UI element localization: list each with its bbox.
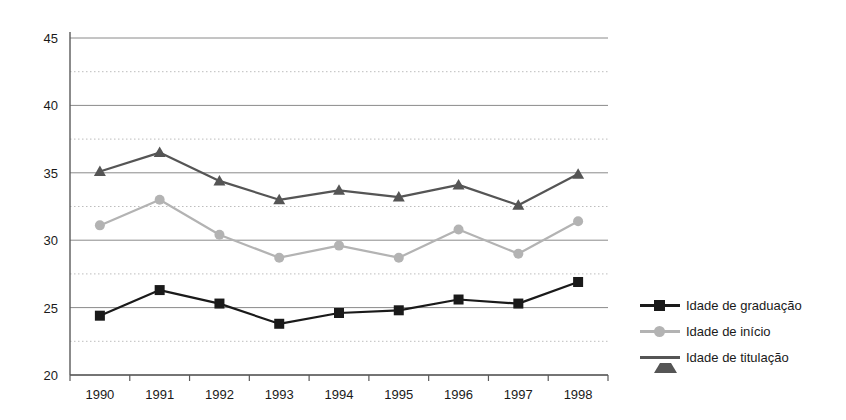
data-point-circle bbox=[155, 195, 165, 205]
data-point-circle bbox=[394, 253, 404, 263]
data-point-triangle bbox=[453, 179, 465, 190]
data-point-square bbox=[274, 319, 284, 329]
legend-label: Idade de graduação bbox=[686, 298, 802, 313]
data-series-layer bbox=[94, 147, 584, 329]
series-triangle bbox=[94, 147, 584, 210]
x-tick-label: 1996 bbox=[444, 387, 473, 402]
y-tick-label: 40 bbox=[44, 98, 58, 113]
legend-item-inicio[interactable]: Idade de início bbox=[640, 318, 846, 344]
x-axis-tick-labels: 199019911992199319941995199619971998 bbox=[85, 387, 592, 402]
series-line bbox=[100, 153, 578, 206]
y-tick-label: 35 bbox=[44, 166, 58, 181]
legend-label: Idade de início bbox=[686, 324, 771, 339]
y-tick-label: 45 bbox=[44, 31, 58, 46]
data-point-circle bbox=[573, 216, 583, 226]
data-point-square bbox=[155, 285, 165, 295]
x-tick-label: 1994 bbox=[325, 387, 354, 402]
data-point-triangle bbox=[154, 147, 166, 158]
line-chart: 202530354045 199019911992199319941995199… bbox=[0, 0, 846, 420]
y-tick-label: 20 bbox=[44, 368, 58, 383]
data-point-square bbox=[573, 277, 583, 287]
legend-key-triangle-icon bbox=[640, 349, 680, 365]
x-tick-label: 1991 bbox=[145, 387, 174, 402]
legend-key-square-icon bbox=[640, 297, 680, 313]
legend-item-titulacao[interactable]: Idade de titulação bbox=[640, 344, 846, 370]
x-tick-label: 1998 bbox=[564, 387, 593, 402]
x-axis-ticks bbox=[70, 375, 608, 381]
x-tick-label: 1997 bbox=[504, 387, 533, 402]
data-point-square bbox=[334, 308, 344, 318]
data-point-circle bbox=[454, 224, 464, 234]
series-square bbox=[95, 277, 583, 329]
data-point-square bbox=[214, 299, 224, 309]
y-tick-label: 25 bbox=[44, 301, 58, 316]
data-point-circle bbox=[95, 220, 105, 230]
data-point-square bbox=[95, 311, 105, 321]
x-tick-label: 1992 bbox=[205, 387, 234, 402]
legend-key-circle-icon bbox=[640, 323, 680, 339]
data-point-square bbox=[394, 305, 404, 315]
x-tick-label: 1993 bbox=[265, 387, 294, 402]
data-point-triangle bbox=[572, 168, 584, 179]
data-point-circle bbox=[274, 253, 284, 263]
legend-item-graduacao[interactable]: Idade de graduação bbox=[640, 292, 846, 318]
data-point-triangle bbox=[333, 184, 345, 195]
y-tick-label: 30 bbox=[44, 233, 58, 248]
x-tick-label: 1995 bbox=[384, 387, 413, 402]
legend-label: Idade de titulação bbox=[686, 350, 789, 365]
series-circle bbox=[95, 195, 583, 263]
y-axis-tick-labels: 202530354045 bbox=[44, 31, 58, 383]
data-point-circle bbox=[513, 249, 523, 259]
chart-legend: Idade de graduação Idade de início Idade… bbox=[640, 292, 846, 370]
data-point-circle bbox=[334, 241, 344, 251]
data-point-square bbox=[513, 299, 523, 309]
x-tick-label: 1990 bbox=[85, 387, 114, 402]
data-point-circle bbox=[214, 230, 224, 240]
data-point-square bbox=[454, 295, 464, 305]
